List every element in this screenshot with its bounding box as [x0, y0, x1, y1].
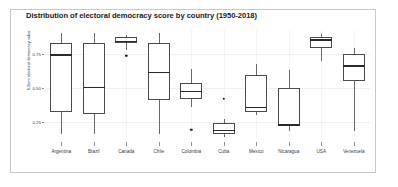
- x-tick-mark: [159, 142, 160, 146]
- y-tick-label: 0.25: [32, 119, 41, 124]
- x-tick-label-brazil: Brazil: [88, 149, 100, 154]
- boxplot-cuba[interactable]: [213, 30, 235, 142]
- x-tick-label-cuba: Cuba: [218, 149, 229, 154]
- whisker-lower: [191, 99, 192, 107]
- box-iqr: [83, 43, 105, 113]
- boxplot-usa[interactable]: [310, 30, 332, 142]
- x-tick-label-nicaragua: Nicaragua: [278, 149, 299, 154]
- median-line: [278, 124, 300, 126]
- boxplot-mexico[interactable]: [245, 30, 267, 142]
- boxplot-brazil[interactable]: [83, 30, 105, 142]
- outlier-point: [125, 54, 127, 56]
- median-line: [180, 91, 202, 93]
- y-tick-mark: [42, 122, 44, 123]
- median-line: [83, 87, 105, 89]
- y-tick-label: 0.75: [32, 52, 41, 57]
- median-line: [343, 65, 365, 67]
- x-tick-mark: [321, 142, 322, 146]
- median-line: [310, 39, 332, 41]
- box-iqr: [278, 88, 300, 126]
- whisker-lower: [224, 134, 225, 137]
- x-tick-mark: [126, 142, 127, 146]
- whisker-lower: [61, 112, 62, 134]
- whisker-lower: [159, 100, 160, 134]
- x-tick-label-usa: USA: [317, 149, 326, 154]
- boxplot-chile[interactable]: [148, 30, 170, 142]
- whisker-lower: [321, 48, 322, 61]
- boxplot-argentina[interactable]: [50, 30, 72, 142]
- whisker-upper: [159, 33, 160, 44]
- whisker-upper: [256, 64, 257, 75]
- x-tick-label-argentina: Argentina: [51, 149, 71, 154]
- x-tick-label-mexico: Mexico: [249, 149, 264, 154]
- outlier-point: [223, 98, 225, 100]
- whisker-upper: [94, 33, 95, 44]
- median-line: [245, 107, 267, 109]
- box-iqr: [343, 54, 365, 81]
- whisker-upper: [191, 69, 192, 82]
- x-tick-label-chile: Chile: [154, 149, 164, 154]
- whisker-upper: [61, 33, 62, 44]
- whisker-lower: [256, 112, 257, 115]
- median-line: [213, 130, 235, 132]
- whisker-lower: [354, 81, 355, 131]
- x-tick-mark: [256, 142, 257, 146]
- y-tick-mark: [42, 88, 44, 89]
- whisker-lower: [126, 43, 127, 50]
- y-axis-label: V-Dem electoral democracy index: [26, 15, 31, 107]
- plot-area: 0.250.500.75ArgentinaBrazilCanadaChileCo…: [45, 30, 370, 142]
- y-tick-label: 0.50: [32, 86, 41, 91]
- median-line: [50, 54, 72, 56]
- median-line: [148, 72, 170, 74]
- whisker-lower: [94, 114, 95, 134]
- boxplot-canada[interactable]: [115, 30, 137, 142]
- boxplot-venezuela[interactable]: [343, 30, 365, 142]
- whisker-upper: [289, 70, 290, 88]
- boxplot-colombia[interactable]: [180, 30, 202, 142]
- x-tick-mark: [224, 142, 225, 146]
- x-tick-mark: [354, 142, 355, 146]
- x-tick-label-canada: Canada: [118, 149, 134, 154]
- x-tick-mark: [94, 142, 95, 146]
- x-tick-mark: [289, 142, 290, 146]
- outlier-point: [190, 129, 192, 131]
- x-tick-mark: [191, 142, 192, 146]
- chart-title: Distribution of electoral democracy scor…: [26, 11, 346, 20]
- x-tick-mark: [61, 142, 62, 146]
- box-iqr: [310, 37, 332, 48]
- box-iqr: [213, 123, 235, 134]
- x-tick-label-colombia: Colombia: [182, 149, 201, 154]
- whisker-lower: [289, 126, 290, 131]
- y-tick-mark: [42, 54, 44, 55]
- x-tick-label-venezuela: Venezuela: [343, 149, 364, 154]
- boxplot-nicaragua[interactable]: [278, 30, 300, 142]
- median-line: [115, 41, 137, 43]
- chart-screenshot: Distribution of electoral democracy scor…: [0, 0, 398, 187]
- whisker-upper: [354, 48, 355, 55]
